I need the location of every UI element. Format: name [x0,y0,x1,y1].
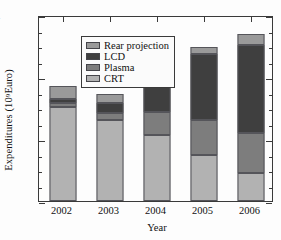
y-axis-label-exponent: 9 [4,94,12,98]
legend-swatch-icon [86,75,100,82]
y-tick-minor [269,95,272,96]
y-tick-minor [39,48,42,49]
legend-swatch-icon [86,64,100,71]
bar-2004 [143,69,170,201]
y-tick-minor [269,33,272,34]
y-tick-minor [39,126,42,127]
y-tick-minor [269,172,272,173]
x-tick [251,17,252,22]
y-tick-minor [39,172,42,173]
legend-label: Rear projection [104,40,169,51]
bar-2003 [96,94,123,201]
x-tick-label: 2006 [228,205,272,216]
bar-2006 [237,34,264,201]
y-tick-major [266,79,272,80]
legend-item: CRT [86,73,169,84]
y-tick-minor [269,188,272,189]
legend-label: CRT [104,73,124,84]
y-tick-minor [269,64,272,65]
legend-label: Plasma [104,62,134,73]
x-tick-label: 2005 [181,205,225,216]
y-tick-minor [269,157,272,158]
y-tick-major [266,203,272,204]
y-axis-label: Expenditures (109 Euro) [0,0,16,240]
y-tick-minor [39,33,42,34]
y-tick-major [39,141,45,142]
x-tick [63,17,64,22]
bar-2002 [49,86,76,201]
x-tick [157,17,158,22]
y-tick-minor [39,188,42,189]
y-axis-label-tail: Euro) [3,69,14,93]
chart-legend: Rear projectionLCDPlasmaCRT [81,36,175,88]
y-tick-minor [269,48,272,49]
plot-area: Rear projectionLCDPlasmaCRT [38,16,273,202]
legend-item: Rear projection [86,40,169,51]
legend-label: LCD [104,51,125,62]
bar-2005 [190,47,217,201]
y-tick-major [39,203,45,204]
legend-swatch-icon [86,42,100,49]
y-tick-major [266,17,272,18]
y-tick-minor [39,110,42,111]
x-axis-label: Year [38,222,276,233]
x-tick-label: 2003 [87,205,131,216]
y-tick-minor [39,157,42,158]
legend-item: LCD [86,51,169,62]
y-tick-minor [269,126,272,127]
legend-item: Plasma [86,62,169,73]
chart-figure: Expenditures (109 Euro) Rear projectionL… [0,0,281,240]
x-tick [204,17,205,22]
y-tick-minor [39,64,42,65]
y-tick-minor [39,95,42,96]
x-tick-label: 2002 [40,205,84,216]
y-axis-label-base: Expenditures (10 [3,97,14,171]
y-tick-major [266,141,272,142]
x-tick-label: 2004 [134,205,178,216]
x-tick [110,17,111,22]
y-tick-major [39,17,45,18]
y-tick-minor [269,110,272,111]
legend-swatch-icon [86,53,100,60]
y-tick-major [39,79,45,80]
